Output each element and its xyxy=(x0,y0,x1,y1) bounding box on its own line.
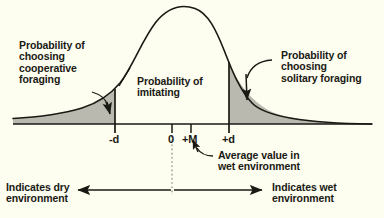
label-indicates-dry: Indicates dry environment xyxy=(6,182,69,205)
right-annotation-leader xyxy=(247,60,272,78)
right-annotation-arrow xyxy=(246,74,247,100)
annotation-average-value: Average value in wet environment xyxy=(218,150,300,173)
average-note-leader xyxy=(197,148,213,156)
tick-label-minus-d: -d xyxy=(109,134,119,146)
figure-canvas: Probability of choosing cooperative fora… xyxy=(0,0,384,218)
annotation-solitary-foraging: Probability of choosing solitary foragin… xyxy=(281,50,362,84)
tick-label-plus-d: +d xyxy=(222,134,235,146)
annotation-cooperative-foraging: Probability of choosing cooperative fora… xyxy=(19,40,85,85)
tick-label-zero: 0 xyxy=(168,134,174,146)
center-annotation-leader xyxy=(119,68,130,86)
annotation-imitating: Probability of imitating xyxy=(137,76,203,99)
tick-label-plus-m: +M xyxy=(182,134,197,146)
label-indicates-wet: Indicates wet environment xyxy=(272,182,337,205)
